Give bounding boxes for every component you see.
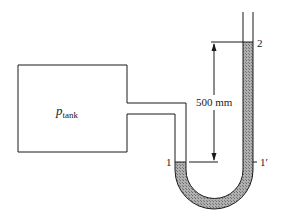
tank-pressure-label: ptank bbox=[55, 103, 78, 120]
point-1-label: 1 bbox=[166, 156, 172, 168]
point-2-label: 2 bbox=[257, 37, 263, 49]
arrowhead-up-icon bbox=[212, 43, 217, 51]
arrowhead-down-icon bbox=[212, 153, 217, 161]
manometer-diagram: ptank 500 mm 1 1′ 2 bbox=[0, 0, 283, 217]
dimension-label: 500 mm bbox=[196, 96, 233, 108]
connecting-pipe-top bbox=[127, 103, 186, 170]
point-1prime-label: 1′ bbox=[260, 156, 268, 168]
tank-outline bbox=[18, 65, 127, 152]
